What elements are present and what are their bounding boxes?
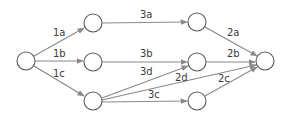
flow-diagram: 1a 1b 1c 3a 3b 3d 3c 2d 2a 2b 2c xyxy=(0,0,289,121)
edges xyxy=(34,22,257,102)
label-3b: 3b xyxy=(140,48,153,59)
node-1c[interactable] xyxy=(84,92,102,110)
edge-3c xyxy=(102,101,187,102)
label-1c: 1c xyxy=(53,68,65,79)
label-1b: 1b xyxy=(53,48,66,59)
node-3b[interactable] xyxy=(188,53,206,71)
node-1b[interactable] xyxy=(84,53,102,71)
node-end[interactable] xyxy=(256,52,274,70)
label-3d: 3d xyxy=(140,66,153,77)
label-3c: 3c xyxy=(148,89,160,100)
label-2c: 2c xyxy=(218,73,230,84)
label-1a: 1a xyxy=(53,27,66,38)
label-2b: 2b xyxy=(227,48,240,59)
label-2a: 2a xyxy=(227,27,240,38)
node-start[interactable] xyxy=(17,52,35,70)
edge-3a xyxy=(102,22,187,23)
edge-2c xyxy=(205,67,257,96)
node-1a[interactable] xyxy=(84,14,102,32)
label-2d: 2d xyxy=(175,72,188,83)
node-3a[interactable] xyxy=(188,13,206,31)
node-3c[interactable] xyxy=(188,92,206,110)
label-3a: 3a xyxy=(140,9,153,20)
